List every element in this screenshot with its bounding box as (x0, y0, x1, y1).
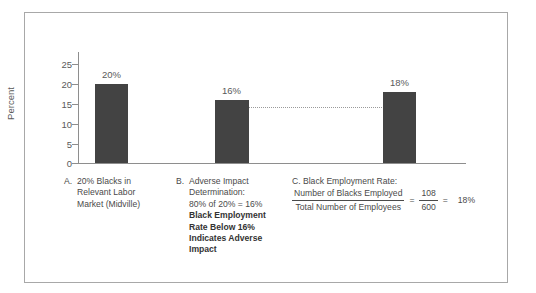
y-tick-0 (72, 163, 78, 164)
bar-c-value-label: 18% (369, 78, 430, 88)
y-tick-label-20: 20 (46, 80, 72, 90)
y-tick-label-0: 0 (46, 159, 72, 169)
caption-c-equals-2: = (438, 195, 453, 206)
x-axis-line (78, 163, 466, 164)
caption-b-bold-line-3: Indicates Adverse (189, 233, 296, 244)
caption-b-bold-line-4: Impact (189, 244, 296, 255)
bar-a (95, 84, 128, 163)
bar-a-value-label: 20% (81, 70, 142, 80)
bar-b-value-label: 16% (201, 86, 262, 96)
y-tick-label-10: 10 (46, 120, 72, 130)
caption-b-letter: B. (176, 176, 184, 187)
y-tick-25 (72, 64, 78, 65)
caption-c-right-numerator: 108 (419, 188, 437, 200)
y-axis-label: Percent (5, 74, 16, 134)
caption-c-equation: Number of Blacks Employed Total Number o… (292, 188, 502, 213)
caption-c-right-denominator: 600 (419, 201, 437, 213)
y-tick-15 (72, 104, 78, 105)
y-axis-line (78, 52, 79, 164)
caption-b-line-3: 80% of 20% = 16% (189, 199, 296, 210)
caption-b-line-2: Determination: (189, 187, 296, 198)
y-tick-label-25: 25 (46, 60, 72, 70)
caption-c-fraction-right: 108 600 (419, 188, 437, 213)
caption-c-left-denominator: Total Number of Employees (292, 201, 404, 213)
bar-chart-figure: Percent 25 20 15 10 5 0 20% 16% 18% A. 2… (0, 0, 536, 293)
caption-b: B. Adverse Impact Determination: 80% of … (176, 176, 296, 256)
caption-c-title: C. Black Employment Rate: (292, 176, 502, 187)
bar-b (215, 100, 249, 163)
caption-c-equals-1: = (404, 195, 419, 206)
adverse-impact-threshold-line (249, 107, 382, 109)
caption-c-left-numerator: Number of Blacks Employed (292, 188, 404, 200)
bar-c (383, 92, 416, 163)
caption-a-line-1: 20% Blacks in (77, 176, 174, 187)
caption-c-result: 18% (453, 195, 475, 206)
caption-c-fraction-left: Number of Blacks Employed Total Number o… (292, 188, 404, 213)
y-tick-10 (72, 124, 78, 125)
y-tick-label-15: 15 (46, 100, 72, 110)
caption-c: C. Black Employment Rate: Number of Blac… (292, 176, 502, 213)
y-tick-20 (72, 84, 78, 85)
caption-b-bold-line-1: Black Employment (189, 210, 296, 221)
y-tick-label-5: 5 (46, 140, 72, 150)
caption-a-letter: A. (64, 176, 72, 187)
caption-a: A. 20% Blacks in Relevant Labor Market (… (64, 176, 174, 210)
y-tick-5 (72, 144, 78, 145)
caption-b-bold-line-2: Rate Below 16% (189, 222, 296, 233)
caption-a-line-3: Market (Midville) (77, 199, 174, 210)
caption-a-line-2: Relevant Labor (77, 187, 174, 198)
caption-b-line-1: Adverse Impact (189, 176, 296, 187)
